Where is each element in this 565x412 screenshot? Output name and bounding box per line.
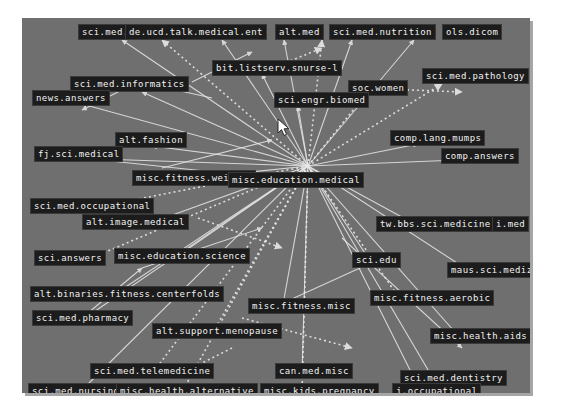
graph-node-label[interactable]: alt.binaries.fitness.centerfolds: [30, 286, 224, 302]
graph-node-label[interactable]: alt.image.medical: [82, 214, 189, 230]
graph-node-label[interactable]: misc.fitness.aerobic: [370, 290, 494, 306]
graph-node-label[interactable]: bit.listserv.snurse-l: [212, 60, 342, 76]
graph-node-label[interactable]: sci.edu: [352, 252, 401, 268]
graph-node-label[interactable]: sci.med.pathology: [422, 68, 529, 84]
graph-node-label[interactable]: comp.answers: [441, 148, 519, 164]
graph-node-label[interactable]: misc.kids.pregnancy: [260, 383, 379, 393]
graph-node-label[interactable]: alt.fashion: [115, 132, 187, 148]
graph-node-label[interactable]: sci.med.nutrition: [329, 24, 436, 40]
graph-node-label[interactable]: tw.bbs.sci.medicine: [376, 216, 495, 232]
graph-node-label[interactable]: fj.sci.medical: [34, 146, 123, 162]
graph-edge: [308, 166, 434, 380]
graph-node-label[interactable]: misc.health.alternative: [116, 383, 258, 393]
graph-edge: [308, 160, 458, 166]
graph-node-label[interactable]: misc.education.science: [114, 248, 250, 264]
graph-node-label[interactable]: alt.med: [275, 24, 324, 40]
graph-edge: [182, 166, 308, 392]
graph-node-label[interactable]: misc.fitness.misc: [248, 298, 355, 314]
graph-node-label[interactable]: sci.answers: [34, 250, 106, 266]
graph-hub-label[interactable]: misc.education.medical: [228, 172, 364, 188]
graph-node-label[interactable]: ols.dicom: [442, 24, 502, 40]
graph-node-label[interactable]: sci.med.telemedicine: [90, 363, 214, 379]
graph-node-label[interactable]: maus.sci.medizin: [447, 262, 530, 278]
graph-node-label[interactable]: comp.lang.mumps: [390, 130, 485, 146]
graph-node-label[interactable]: alt.support.menopause: [152, 323, 282, 339]
graph-node-label[interactable]: news.answers: [32, 90, 110, 106]
mouse-cursor-icon: [277, 118, 290, 141]
graph-node-label[interactable]: sci.med.occupational: [30, 198, 154, 214]
graph-edge: [308, 166, 422, 393]
graph-node-label[interactable]: i.med: [492, 216, 529, 232]
graph-node-label[interactable]: can.med.misc: [275, 363, 353, 379]
graph-canvas[interactable]: sci.med.de.ucd.talk.medical.entalt.medsc…: [22, 18, 530, 393]
graph-edge: [152, 166, 308, 374]
graph-node-label[interactable]: sci.engr.biomed: [274, 92, 369, 108]
screenshot-root: sci.med.de.ucd.talk.medical.entalt.medsc…: [0, 0, 565, 412]
graph-node-label[interactable]: misc.health.aids: [430, 328, 530, 344]
graph-node-label[interactable]: sci.med.nursing: [28, 383, 123, 393]
graph-node-label[interactable]: sci.med.pharmacy: [32, 310, 133, 326]
graph-node-label[interactable]: de.ucd.talk.medical.ent: [125, 24, 267, 40]
graph-node-label[interactable]: j.occupational: [392, 383, 481, 393]
